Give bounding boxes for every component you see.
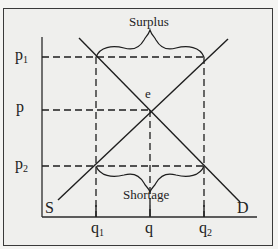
q2-label-base: q [199,219,207,236]
supply-curve [58,39,228,200]
p2-label-base: p [15,155,23,172]
q1-label-sub: 1 [99,227,104,238]
equilibrium-label: e [145,86,151,102]
p2-label-sub: 2 [23,163,28,174]
q1-label: q1 [91,219,104,238]
q2-label: q2 [199,219,212,238]
demand-curve [79,38,240,202]
supply-label: S [45,199,54,217]
p1-label: p1 [15,46,28,65]
p1-label-sub: 1 [23,54,28,65]
p-label: p [16,98,24,116]
p-label-base: p [16,98,24,115]
q1-label-base: q [91,219,99,236]
shortage-label: Shortage [123,187,169,203]
q-label-base: q [145,219,153,236]
q-label: q [145,219,153,237]
surplus-brace [96,30,204,57]
p1-label-base: p [15,46,23,63]
surplus-label: Surplus [129,14,169,30]
q2-label-sub: 2 [207,227,212,238]
p2-label: p2 [15,155,28,174]
demand-label: D [237,199,249,217]
